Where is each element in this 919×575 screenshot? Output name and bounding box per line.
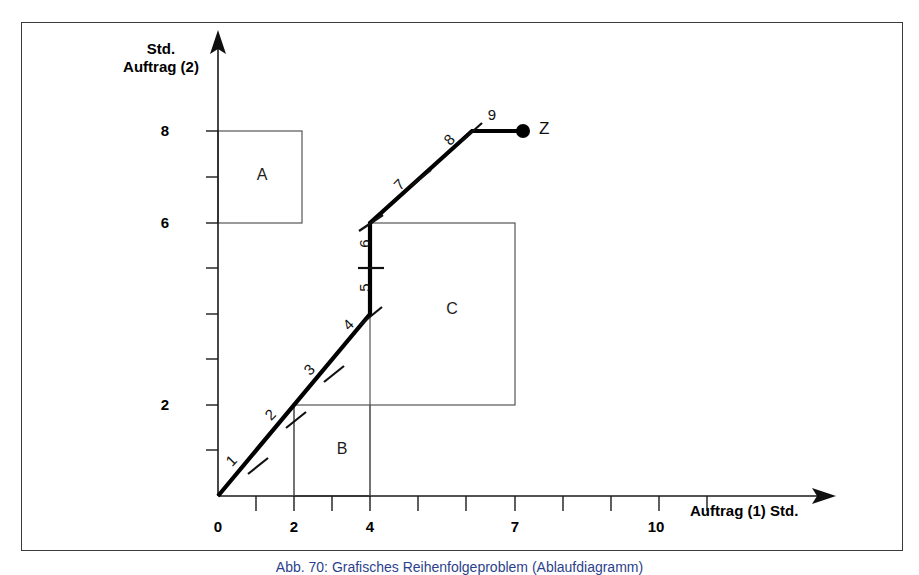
segment-label-9: 9 — [483, 106, 501, 123]
x-tick-label-4: 4 — [357, 518, 383, 535]
x-tick-label-7: 7 — [502, 518, 528, 535]
zone-label-c: C — [440, 300, 464, 318]
zone-label-b: B — [330, 440, 354, 458]
figure-caption: Abb. 70: Grafisches Reihenfolgeproblem (… — [0, 559, 919, 575]
y-axis-title-line2: Auftrag (2) — [96, 58, 226, 76]
endpoint-label-z: Z — [539, 119, 549, 139]
path-mark-2 — [286, 412, 306, 428]
path-unit-marks — [248, 123, 482, 474]
segment-label-5: 5 — [356, 279, 373, 297]
y-axis-title-line1: Std. — [96, 40, 226, 58]
x-tick-label-10: 10 — [643, 518, 669, 535]
x-axis-title: Auftrag (1) Std. — [690, 502, 798, 519]
segment-label-6: 6 — [356, 235, 373, 253]
x-axis-ticks — [256, 496, 707, 511]
endpoint-dot — [516, 124, 530, 138]
x-tick-label-0: 0 — [205, 518, 231, 535]
path-mark-1 — [248, 458, 268, 474]
y-tick-label-2: 2 — [152, 396, 178, 413]
x-tick-label-2: 2 — [281, 518, 307, 535]
axes — [218, 44, 822, 496]
flow-diagram-plot — [0, 0, 919, 575]
y-tick-label-8: 8 — [152, 122, 178, 139]
y-axis-title: Std. Auftrag (2) — [96, 40, 226, 77]
y-tick-label-6: 6 — [152, 214, 178, 231]
path-mark-7 — [411, 170, 431, 186]
zone-label-a: A — [250, 166, 274, 184]
y-axis-ticks — [206, 131, 218, 450]
